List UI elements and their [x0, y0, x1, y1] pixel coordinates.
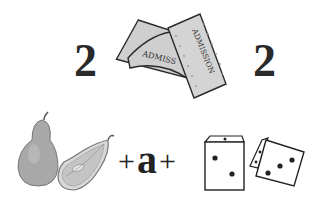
plus-sign-2: +: [159, 144, 176, 177]
plus-sign-1: +: [118, 144, 135, 177]
dice-icon: [200, 134, 304, 194]
die-left: [205, 136, 244, 190]
admission-tickets-icon: ADMISS ADMISSION: [118, 10, 230, 102]
pears-icon: [14, 106, 120, 194]
letter-a: a: [137, 137, 157, 182]
die-right: [250, 138, 304, 186]
number-left: 2: [74, 38, 97, 84]
number-right: 2: [253, 38, 276, 84]
equation: +a+: [118, 140, 176, 180]
